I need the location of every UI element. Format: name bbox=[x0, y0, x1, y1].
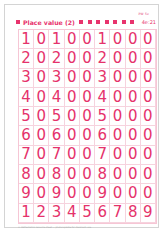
digit-cell: 0 bbox=[141, 184, 156, 203]
digit-cell: 2 bbox=[49, 49, 64, 68]
sheet-code: PW 5v bbox=[139, 12, 149, 16]
digit-cell: 0 bbox=[80, 107, 95, 126]
digit-cell: 2 bbox=[19, 49, 34, 68]
worksheet-page: PW 5v Place value (2) 4e:21 101001000202… bbox=[4, 4, 159, 228]
digit-cell: 0 bbox=[110, 49, 125, 68]
digit-cell: 0 bbox=[80, 88, 95, 107]
digit-cell: 0 bbox=[34, 30, 49, 49]
digit-cell: 5 bbox=[80, 204, 95, 223]
digit-cell: 0 bbox=[141, 69, 156, 88]
digit-cell: 6 bbox=[95, 204, 110, 223]
digit-cell: 4 bbox=[49, 88, 64, 107]
digit-cell: 0 bbox=[34, 107, 49, 126]
square-icon bbox=[130, 20, 134, 24]
digit-cell: 0 bbox=[110, 88, 125, 107]
digit-cell: 0 bbox=[110, 107, 125, 126]
digit-cell: 3 bbox=[49, 69, 64, 88]
digit-cell: 3 bbox=[49, 204, 64, 223]
digit-cell: 8 bbox=[19, 165, 34, 184]
digit-cell: 0 bbox=[110, 165, 125, 184]
digit-cell: 0 bbox=[80, 49, 95, 68]
digit-cell: 0 bbox=[110, 184, 125, 203]
digit-cell: 9 bbox=[49, 184, 64, 203]
digit-cell: 1 bbox=[95, 30, 110, 49]
digit-cell: 0 bbox=[110, 69, 125, 88]
digit-cell: 0 bbox=[34, 146, 49, 165]
square-icon bbox=[88, 20, 92, 24]
digit-cell: 0 bbox=[141, 30, 156, 49]
digit-cell: 0 bbox=[65, 88, 80, 107]
digit-cell: 9 bbox=[141, 204, 156, 223]
digit-cell: 7 bbox=[95, 146, 110, 165]
digit-cell: 4 bbox=[19, 88, 34, 107]
digit-cell: 0 bbox=[110, 30, 125, 49]
digit-cell: 0 bbox=[126, 88, 141, 107]
digit-cell: 0 bbox=[34, 88, 49, 107]
digit-cell: 8 bbox=[49, 165, 64, 184]
digit-cell: 0 bbox=[126, 126, 141, 145]
worksheet-header: Place value (2) 4e:21 bbox=[16, 18, 156, 26]
digit-cell: 5 bbox=[95, 107, 110, 126]
digit-cell: 0 bbox=[34, 165, 49, 184]
digit-cell: 0 bbox=[126, 184, 141, 203]
digit-cell: 0 bbox=[65, 49, 80, 68]
digit-cell: 1 bbox=[19, 204, 34, 223]
digit-cell: 0 bbox=[34, 126, 49, 145]
digit-cell: 2 bbox=[34, 204, 49, 223]
digit-cell: 1 bbox=[19, 30, 34, 49]
square-icon bbox=[113, 20, 117, 24]
digit-cell: 0 bbox=[141, 88, 156, 107]
digit-cell: 0 bbox=[65, 165, 80, 184]
square-icon bbox=[122, 20, 126, 24]
digit-cell: 9 bbox=[95, 184, 110, 203]
digit-cell: 0 bbox=[65, 146, 80, 165]
digit-cell: 0 bbox=[80, 126, 95, 145]
digit-cell: 0 bbox=[80, 30, 95, 49]
square-icon bbox=[79, 20, 83, 24]
decorative-squares bbox=[79, 20, 139, 24]
digit-cell: 0 bbox=[65, 126, 80, 145]
digit-cell: 0 bbox=[110, 126, 125, 145]
digit-cell: 0 bbox=[126, 30, 141, 49]
digit-cell: 0 bbox=[141, 146, 156, 165]
digit-cell: 4 bbox=[65, 204, 80, 223]
digit-cell: 0 bbox=[65, 184, 80, 203]
digit-cell: 0 bbox=[80, 165, 95, 184]
digit-cell: 8 bbox=[126, 204, 141, 223]
worksheet-title: Place value (2) bbox=[23, 19, 75, 26]
square-icon bbox=[96, 20, 100, 24]
digit-cell: 0 bbox=[110, 146, 125, 165]
digit-cell: 6 bbox=[19, 126, 34, 145]
digit-cell: 0 bbox=[65, 30, 80, 49]
digit-cell: 6 bbox=[49, 126, 64, 145]
sheet-reference: 4e:21 bbox=[142, 19, 156, 25]
digit-cell: 6 bbox=[95, 126, 110, 145]
digit-cell: 2 bbox=[95, 49, 110, 68]
digit-cell: 0 bbox=[126, 165, 141, 184]
digit-grid: 1010010002020020003030030004040040005050… bbox=[18, 29, 157, 224]
digit-cell: 7 bbox=[19, 146, 34, 165]
digit-cell: 7 bbox=[49, 146, 64, 165]
digit-cell: 3 bbox=[95, 69, 110, 88]
digit-cell: 0 bbox=[34, 49, 49, 68]
digit-cell: 0 bbox=[34, 184, 49, 203]
digit-cell: 0 bbox=[126, 69, 141, 88]
digit-cell: 8 bbox=[95, 165, 110, 184]
digit-cell: 0 bbox=[65, 69, 80, 88]
digit-cell: 0 bbox=[141, 49, 156, 68]
digit-cell: 3 bbox=[19, 69, 34, 88]
digit-cell: 0 bbox=[80, 69, 95, 88]
digit-cell: 1 bbox=[49, 30, 64, 49]
digit-cell: 0 bbox=[65, 107, 80, 126]
digit-cell: 9 bbox=[19, 184, 34, 203]
digit-cell: 0 bbox=[141, 107, 156, 126]
digit-cell: 0 bbox=[126, 146, 141, 165]
digit-cell: 4 bbox=[95, 88, 110, 107]
digit-cell: 5 bbox=[49, 107, 64, 126]
digit-cell: 0 bbox=[80, 184, 95, 203]
digit-cell: 0 bbox=[126, 107, 141, 126]
digit-cell: 0 bbox=[126, 49, 141, 68]
bullet-square-icon bbox=[16, 20, 20, 24]
digit-cell: 5 bbox=[19, 107, 34, 126]
footer-text: © Mathematics resource sheet — photocopi… bbox=[18, 226, 91, 229]
